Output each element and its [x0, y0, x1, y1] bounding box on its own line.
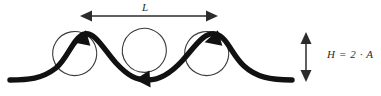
wavelength-arrowhead-left-icon [80, 11, 92, 22]
wave-surface-profile [10, 34, 292, 80]
wave-diagram-canvas [0, 0, 381, 96]
wave-height-arrowhead-bottom-icon [301, 70, 312, 82]
flow-arrowhead-trough-icon [134, 71, 150, 89]
wave-surface-group [10, 34, 292, 80]
wavelength-arrowhead-right-icon [206, 11, 218, 22]
vortex-trough-middle-icon [122, 28, 166, 72]
wave-height-arrowhead-top-icon [301, 32, 312, 44]
wavelength-label: L [142, 1, 148, 13]
wave-height-label: H = 2 · A [327, 48, 374, 60]
wave-height-dimension-arrow [301, 32, 312, 82]
wave-diagram-figure: L H = 2 · A [0, 0, 381, 96]
wavelength-dimension-arrow [80, 11, 218, 22]
